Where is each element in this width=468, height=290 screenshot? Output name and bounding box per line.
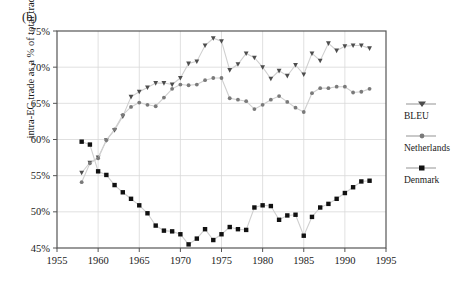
- x-tick-label: 1970: [170, 255, 191, 266]
- y-tick-label: 70%: [31, 62, 51, 73]
- y-tick-label: 55%: [31, 170, 51, 181]
- data-point-bleu: [203, 43, 208, 48]
- x-tick-label: 1980: [252, 255, 273, 266]
- data-point-denmark: [104, 173, 108, 177]
- data-point-bleu: [334, 49, 339, 54]
- data-point-netherlands: [187, 83, 191, 87]
- legend-sample-netherlands: [404, 130, 468, 142]
- triangle-down-icon: [418, 100, 426, 108]
- data-point-netherlands: [170, 87, 174, 91]
- y-tick-label: 75%: [31, 26, 51, 37]
- x-tick-label: 1985: [293, 255, 314, 266]
- data-point-denmark: [343, 191, 347, 195]
- y-tick-label: 50%: [31, 206, 51, 217]
- data-point-netherlands: [294, 106, 298, 110]
- data-point-denmark: [244, 228, 248, 232]
- y-tick-label: 45%: [31, 243, 51, 254]
- data-point-denmark: [79, 139, 83, 143]
- data-point-denmark: [145, 211, 149, 215]
- data-point-netherlands: [178, 83, 182, 87]
- data-point-netherlands: [121, 113, 125, 117]
- data-point-netherlands: [88, 161, 92, 165]
- series-line-netherlands: [82, 78, 370, 182]
- data-point-bleu: [367, 46, 372, 51]
- data-point-denmark: [203, 227, 207, 231]
- data-point-bleu: [236, 62, 241, 67]
- legend-label-netherlands: Netherlands: [404, 142, 468, 155]
- data-point-denmark: [219, 232, 223, 236]
- data-point-denmark: [137, 203, 141, 207]
- data-point-netherlands: [80, 180, 84, 184]
- legend-sample-bleu: [404, 98, 468, 110]
- y-tick-label: 65%: [31, 98, 51, 109]
- data-point-bleu: [219, 39, 224, 44]
- legend-sample-denmark: [404, 162, 468, 174]
- data-point-denmark: [293, 213, 297, 217]
- data-point-denmark: [326, 202, 330, 206]
- data-point-netherlands: [327, 86, 331, 90]
- data-point-denmark: [367, 179, 371, 183]
- data-point-denmark: [211, 238, 215, 242]
- x-tick-label: 1995: [376, 255, 397, 266]
- data-point-bleu: [268, 77, 273, 82]
- data-point-netherlands: [154, 104, 158, 108]
- data-point-denmark: [186, 242, 190, 246]
- series-line-bleu: [82, 38, 370, 173]
- data-point-netherlands: [277, 94, 281, 98]
- data-point-netherlands: [236, 98, 240, 102]
- data-point-denmark: [334, 197, 338, 201]
- data-point-netherlands: [137, 101, 141, 105]
- data-point-denmark: [112, 183, 116, 187]
- data-point-denmark: [121, 190, 125, 194]
- data-point-netherlands: [318, 86, 322, 90]
- data-point-netherlands: [162, 96, 166, 100]
- data-point-bleu: [301, 72, 306, 77]
- data-point-netherlands: [351, 91, 355, 95]
- data-point-bleu: [129, 95, 134, 100]
- x-tick-label: 1955: [47, 255, 68, 266]
- data-point-netherlands: [261, 103, 265, 107]
- data-point-bleu: [227, 68, 232, 73]
- data-point-bleu: [170, 83, 175, 88]
- legend-item-netherlands[interactable]: Netherlands: [404, 130, 468, 155]
- data-point-netherlands: [113, 127, 117, 131]
- x-tick-label: 1990: [334, 255, 355, 266]
- data-point-netherlands: [359, 90, 363, 94]
- data-point-netherlands: [146, 103, 150, 107]
- data-point-netherlands: [343, 85, 347, 89]
- data-point-netherlands: [96, 156, 100, 160]
- data-point-bleu: [318, 59, 323, 64]
- data-point-denmark: [359, 179, 363, 183]
- data-point-denmark: [351, 185, 355, 189]
- square-icon: [418, 164, 426, 172]
- data-point-netherlands: [285, 100, 289, 104]
- chart-legend: BLEU Netherlands Denmark: [404, 98, 468, 194]
- data-point-netherlands: [129, 105, 133, 109]
- data-point-netherlands: [269, 98, 273, 102]
- circle-icon: [418, 132, 426, 140]
- data-point-denmark: [96, 169, 100, 173]
- data-point-denmark: [170, 229, 174, 233]
- legend-item-bleu[interactable]: BLEU: [404, 98, 468, 123]
- legend-label-bleu: BLEU: [404, 110, 468, 123]
- data-point-netherlands: [220, 76, 224, 80]
- data-point-netherlands: [195, 83, 199, 87]
- data-point-netherlands: [310, 91, 314, 95]
- data-point-netherlands: [203, 78, 207, 82]
- data-point-denmark: [260, 203, 264, 207]
- data-point-netherlands: [228, 96, 232, 100]
- x-tick-label: 1965: [129, 255, 150, 266]
- data-point-bleu: [285, 74, 290, 79]
- legend-label-denmark: Denmark: [404, 174, 468, 187]
- x-tick-label: 1975: [211, 255, 232, 266]
- data-point-denmark: [252, 205, 256, 209]
- data-point-denmark: [154, 223, 158, 227]
- data-point-denmark: [88, 142, 92, 146]
- data-point-denmark: [310, 215, 314, 219]
- data-point-denmark: [195, 236, 199, 240]
- legend-item-denmark[interactable]: Denmark: [404, 162, 468, 187]
- data-point-netherlands: [368, 87, 372, 91]
- data-point-bleu: [137, 90, 142, 95]
- data-point-netherlands: [104, 138, 108, 142]
- data-point-denmark: [162, 228, 166, 232]
